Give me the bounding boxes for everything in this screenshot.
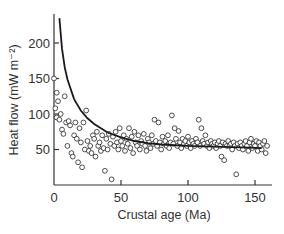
data-point: [61, 132, 66, 137]
data-point: [129, 134, 134, 139]
data-point: [127, 126, 132, 131]
data-point: [163, 139, 168, 144]
y-tick-label: 150: [28, 71, 50, 86]
data-point: [80, 165, 85, 170]
y-axis-title: Heat flow (mW m⁻²): [7, 44, 21, 155]
data-point: [52, 76, 57, 81]
data-point: [156, 120, 161, 125]
data-point: [234, 172, 239, 177]
data-point: [65, 144, 70, 149]
x-axis-title: Crustal age (Ma): [117, 208, 210, 222]
data-point: [137, 147, 142, 152]
data-point: [70, 154, 75, 159]
data-point: [199, 126, 204, 131]
data-point: [104, 136, 109, 141]
data-point: [53, 106, 58, 111]
data-point: [113, 129, 118, 134]
data-point: [186, 134, 191, 139]
data-point: [265, 144, 270, 149]
data-point: [119, 139, 124, 144]
data-point: [148, 146, 153, 151]
data-point: [88, 144, 93, 149]
data-point: [93, 154, 98, 159]
data-point: [170, 113, 175, 118]
data-point: [196, 117, 201, 122]
data-point: [68, 123, 73, 128]
x-tick-label: 100: [177, 190, 199, 205]
data-point: [160, 134, 165, 139]
data-point: [203, 133, 208, 138]
data-point: [56, 99, 61, 104]
data-point: [262, 139, 267, 144]
data-point: [58, 112, 63, 117]
data-point: [222, 158, 227, 163]
data-point: [143, 144, 148, 149]
data-point: [92, 136, 97, 141]
heat-flow-chart: 50100150200050100150 Crustal age (Ma) He…: [0, 0, 284, 234]
data-point: [100, 133, 105, 138]
cooling-curve: [59, 18, 261, 148]
data-point: [125, 141, 130, 146]
y-tick-label: 100: [28, 107, 50, 122]
data-point: [159, 147, 164, 152]
y-tick-label: 50: [36, 142, 50, 157]
data-point: [73, 120, 78, 125]
data-point: [97, 140, 102, 145]
scatter-points: [52, 76, 270, 182]
data-point: [76, 160, 81, 165]
data-point: [103, 168, 108, 173]
data-point: [128, 146, 133, 151]
data-point: [78, 140, 83, 145]
x-tick-label: 150: [244, 190, 266, 205]
data-point: [136, 133, 141, 138]
data-point: [85, 139, 90, 144]
data-point: [84, 108, 89, 113]
data-point: [123, 149, 128, 154]
data-point: [117, 126, 122, 131]
data-point: [176, 129, 181, 134]
data-point: [166, 133, 171, 138]
data-point: [95, 129, 100, 134]
data-point: [131, 151, 136, 156]
data-point: [174, 136, 179, 141]
data-point: [54, 90, 59, 95]
data-point: [263, 151, 268, 156]
data-point: [74, 136, 79, 141]
x-tick-label: 50: [114, 190, 128, 205]
data-point: [120, 144, 125, 149]
data-point: [77, 126, 82, 131]
x-tick-label: 0: [50, 190, 57, 205]
data-point: [132, 129, 137, 134]
data-point: [149, 133, 154, 138]
data-point: [81, 120, 86, 125]
data-point: [141, 132, 146, 137]
y-tick-label: 200: [28, 36, 50, 51]
data-point: [62, 94, 67, 99]
data-point: [116, 147, 121, 152]
data-point: [105, 147, 110, 152]
data-point: [167, 146, 172, 151]
data-point: [57, 117, 62, 122]
data-point: [249, 136, 254, 141]
data-point: [89, 151, 94, 156]
data-point: [109, 177, 114, 182]
